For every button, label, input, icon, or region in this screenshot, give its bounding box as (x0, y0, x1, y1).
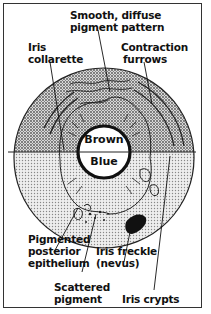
label-line: Contraction (121, 41, 188, 53)
label-line: Pigmented (28, 233, 90, 245)
label-line: Iris (28, 41, 83, 53)
label-contraction-furrows: Contraction furrows (121, 41, 188, 65)
label-line: pigment pattern (70, 21, 164, 33)
label-iris-crypts: Iris crypts (122, 293, 179, 305)
label-blue: Blue (79, 155, 129, 168)
label-scattered-pigment: Scattered pigment (54, 281, 110, 305)
label-brown: Brown (79, 133, 129, 146)
label-line: Iris crypts (122, 293, 179, 305)
label-line: collarette (28, 53, 83, 65)
label-iris-freckle: Iris freckle (nevus) (96, 245, 157, 269)
label-line: Iris freckle (96, 245, 157, 257)
label-line: Scattered (54, 281, 110, 293)
label-line: furrows (121, 53, 188, 65)
label-smooth-pattern: Smooth, diffuse pigment pattern (70, 9, 164, 33)
label-line: pigment (54, 293, 110, 305)
label-line: Smooth, diffuse (70, 9, 164, 21)
label-line: (nevus) (96, 257, 157, 269)
label-iris-collarette: Iris collarette (28, 41, 83, 65)
label-line: epithelium (28, 257, 90, 269)
label-line: posterior (28, 245, 90, 257)
label-pigmented-posterior-epithelium: Pigmented posterior epithelium (28, 233, 90, 269)
